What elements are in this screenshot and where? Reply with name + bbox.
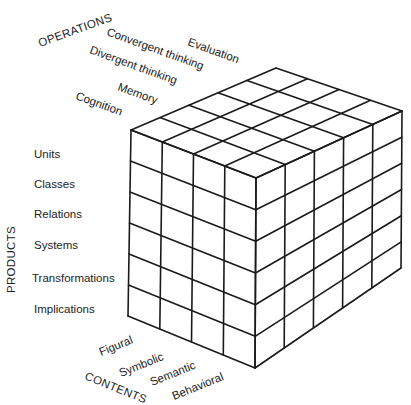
operation-label-memory: Memory bbox=[116, 81, 159, 107]
contents-axis-label: CONTENTS bbox=[83, 370, 148, 405]
top-face-gridline bbox=[218, 93, 344, 138]
product-label-units: Units bbox=[34, 148, 60, 160]
top-face-gridline bbox=[225, 100, 371, 166]
cube-grid bbox=[128, 68, 402, 368]
top-face-gridline bbox=[247, 80, 373, 124]
products-axis-label: PRODUCTS bbox=[5, 226, 17, 293]
operations-axis-label: OPERATIONS bbox=[37, 11, 114, 49]
top-face-gridline bbox=[194, 90, 340, 155]
structure-of-intellect-diagram: OPERATIONS Evaluation Convergent thinkin… bbox=[0, 0, 411, 405]
top-face-gridline bbox=[276, 68, 402, 111]
operation-label-cognition: Cognition bbox=[74, 90, 124, 118]
product-label-systems: Systems bbox=[34, 239, 78, 251]
right-face-gridline bbox=[255, 268, 401, 368]
right-face-gridline bbox=[256, 111, 402, 178]
top-face-gridline bbox=[189, 105, 314, 151]
right-face-gridline bbox=[256, 137, 402, 210]
product-label-implications: Implications bbox=[34, 303, 95, 315]
product-label-transformations: Transformations bbox=[32, 272, 115, 284]
right-face-gridline bbox=[255, 242, 401, 336]
top-face-gridline bbox=[162, 79, 307, 142]
product-label-classes: Classes bbox=[34, 178, 75, 190]
product-label-relations: Relations bbox=[34, 208, 82, 220]
top-face-gridline bbox=[160, 118, 285, 165]
content-label-figural: Figural bbox=[97, 334, 134, 358]
